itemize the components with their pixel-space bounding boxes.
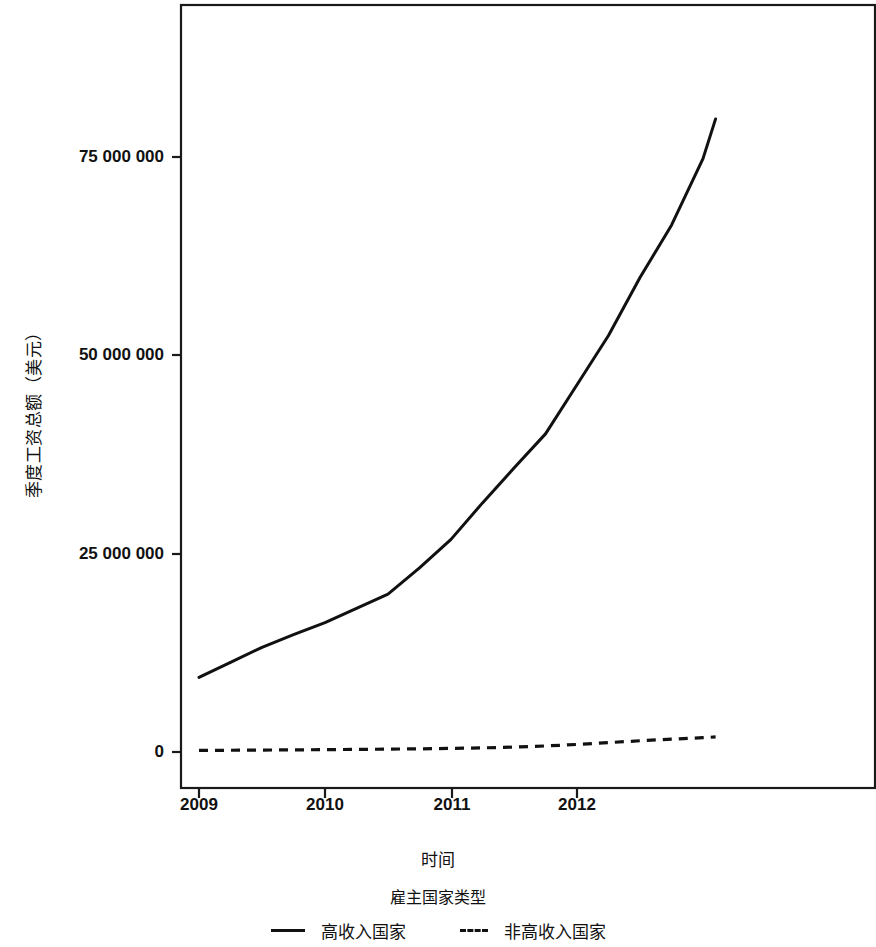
legend-items: 高收入国家非高收入国家: [0, 918, 876, 943]
legend-entry[interactable]: 高收入国家: [271, 918, 406, 943]
chart-legend: 雇主国家类型 高收入国家非高收入国家: [0, 884, 876, 943]
legend-title: 雇主国家类型: [0, 884, 876, 908]
chart-figure: 75 000 00050 000 00025 000 0000 20092010…: [0, 0, 876, 947]
y-tick-label: 75 000 000: [14, 147, 164, 167]
legend-entry[interactable]: 非高收入国家: [460, 918, 606, 943]
legend-label: 高收入国家: [321, 918, 406, 943]
plot-area-border: [181, 5, 875, 788]
x-tick-label: 2009: [139, 795, 259, 815]
series-line-high-income: [199, 119, 716, 678]
y-tick-label: 25 000 000: [14, 544, 164, 564]
y-tick-label: 0: [14, 742, 164, 762]
y-axis-title: 季度工资总额（美元）: [20, 281, 45, 541]
x-tick-label: 2012: [517, 795, 637, 815]
legend-dashed-line-icon: [460, 929, 488, 932]
legend-label: 非高收入国家: [504, 918, 606, 943]
y-axis-tick-marks: [172, 157, 181, 752]
x-tick-label: 2011: [392, 795, 512, 815]
legend-solid-line-icon: [271, 929, 305, 932]
series-line-non-high-income: [199, 737, 716, 750]
x-tick-label: 2010: [265, 795, 385, 815]
x-axis-title: 时间: [0, 846, 876, 871]
